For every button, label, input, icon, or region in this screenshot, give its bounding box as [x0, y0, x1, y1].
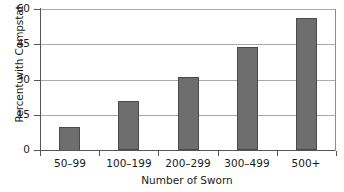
plot-right-border	[335, 9, 336, 151]
gridline	[40, 44, 336, 45]
bar	[296, 18, 317, 150]
x-tick-mark	[277, 151, 278, 156]
y-tick-label: 60	[0, 2, 30, 14]
x-axis-title: Number of Sworn	[38, 174, 336, 186]
x-tick-mark	[218, 151, 219, 156]
x-tick-mark	[40, 151, 41, 156]
x-tick-label: 300–499	[217, 157, 277, 169]
plot-area	[40, 9, 336, 150]
y-tick-label: 15	[0, 108, 30, 120]
x-tick-mark	[336, 151, 337, 156]
bar	[237, 47, 258, 150]
x-axis-spine	[40, 150, 336, 151]
x-tick-label: 100–199	[99, 157, 159, 169]
x-tick-label: 200–299	[158, 157, 218, 169]
y-tick-mark	[34, 9, 40, 10]
y-tick-label: 0	[0, 143, 30, 155]
y-tick-mark	[34, 115, 40, 116]
x-tick-label: 50–99	[40, 157, 100, 169]
y-tick-mark	[34, 80, 40, 81]
bar	[118, 101, 139, 150]
x-tick-label: 500+	[276, 157, 336, 169]
x-tick-mark	[158, 151, 159, 156]
y-tick-label: 30	[0, 73, 30, 85]
bar	[59, 127, 80, 151]
gridline	[40, 9, 336, 10]
bar-chart: Percent with Compstat 015304560 50–99100…	[0, 0, 344, 192]
bar	[178, 77, 199, 150]
x-tick-mark	[99, 151, 100, 156]
y-tick-mark	[34, 44, 40, 45]
y-axis-spine	[40, 8, 41, 151]
y-tick-label: 45	[0, 37, 30, 49]
